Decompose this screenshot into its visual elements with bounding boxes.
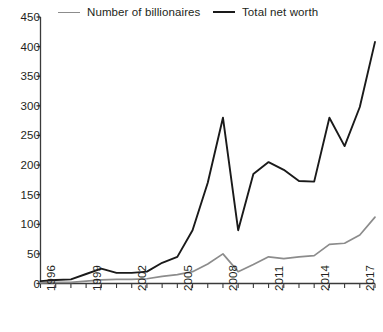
axis-lines [41, 17, 376, 284]
x-axis-tick-label: 2014 [319, 265, 331, 291]
x-axis-tick-label: 2005 [182, 265, 194, 291]
y-axis-tick-label: 100 [12, 218, 40, 230]
y-axis-tick-label: 250 [12, 129, 40, 141]
x-axis-tick-label: 2002 [136, 265, 148, 291]
y-axis-tick-label: 0 [12, 278, 40, 290]
y-axis-tick-label: 300 [12, 100, 40, 112]
x-axis-tick-label: 1999 [91, 265, 103, 291]
y-axis-tick-label: 450 [12, 11, 40, 23]
y-axis-tick-label: 350 [12, 70, 40, 82]
series-line-total-net-worth [41, 42, 376, 281]
y-axis-tick-label: 400 [12, 41, 40, 53]
x-axis-tick-label: 1996 [45, 265, 57, 291]
x-axis-tick-label: 2017 [364, 265, 376, 291]
x-axis-tick-label: 2008 [227, 265, 239, 291]
chart-container: Number of billionaires Total net worth 0… [0, 0, 383, 332]
y-axis-tick-label: 150 [12, 189, 40, 201]
y-axis-tick-label: 200 [12, 159, 40, 171]
y-axis-tick-label: 50 [12, 248, 40, 260]
x-axis-tick-label: 2011 [273, 265, 285, 290]
